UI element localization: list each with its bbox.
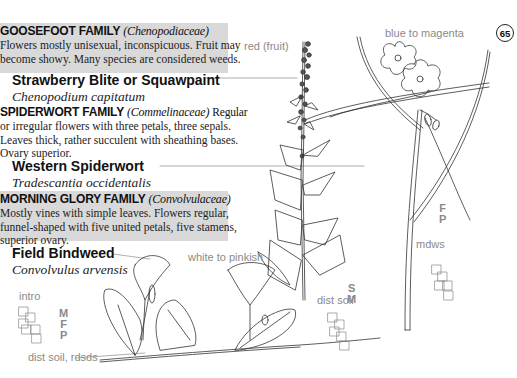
tradescantia-habitat-codes: F P [439,203,446,225]
family-spiderwort: SPIDERWORT FAMILY (Commelinaceae) Regula… [0,104,251,162]
convolvulus-habitat-label: dist soil, rdsds [28,351,98,363]
page-number: 65 [496,24,514,42]
tradescantia-color-label: blue to magenta [385,27,464,39]
family-description-line: Flowers mostly unisexual, inconspicuous.… [0,39,224,53]
tradescantia-habitat-label: mdws [416,238,445,250]
chenopodium-illustration [268,42,345,300]
family-title: MORNING GLORY FAMILY (Convolvulaceae) [0,192,224,207]
convolvulus-illustration [100,252,380,362]
species-latin-name: Chenopodium capitatum [12,89,220,105]
convolvulus-color-label: white to pinkish [188,251,263,263]
family-description-line: Leaves thick, rather succulent with shea… [0,134,247,148]
species-strawberry-blite: Strawberry Blite or Squawpaint Chenopodi… [12,72,220,105]
species-common-name: Western Spiderwort [12,158,151,174]
family-title: GOOSEFOOT FAMILY (Chenopodiaceae) [0,24,224,39]
convolvulus-habitat-codes: M F P [59,308,68,341]
species-latin-name: Convolvulus arvensis [12,262,128,278]
family-description-line: Mostly vines with simple leaves. Flowers… [0,207,224,221]
family-description-line: become showy. Many species are considere… [0,53,224,67]
family-goosefoot: GOOSEFOOT FAMILY (Chenopodiaceae) Flower… [0,23,228,73]
species-field-bindweed: Field Bindweed Convolvulus arvensis [12,245,128,278]
species-common-name: Strawberry Blite or Squawpaint [12,72,220,88]
family-description-line: funnel-shaped with five united petals, f… [0,221,224,235]
species-common-name: Field Bindweed [12,245,128,261]
family-morning-glory: MORNING GLORY FAMILY (Convolvulaceae) Mo… [0,191,228,241]
chenopodium-color-label: red (fruit) [244,40,289,52]
tradescantia-illustration [305,37,490,330]
species-western-spiderwort: Western Spiderwort Tradescantia occident… [12,158,151,191]
chenopodium-habitat-label: dist soil [317,294,354,306]
species-latin-name: Tradescantia occidentalis [12,175,151,191]
family-title: SPIDERWORT FAMILY (Commelinaceae) Regula… [0,105,247,120]
family-description-line: or irregular flowers with three petals, … [0,120,247,134]
convolvulus-status-label: intro [19,290,40,302]
